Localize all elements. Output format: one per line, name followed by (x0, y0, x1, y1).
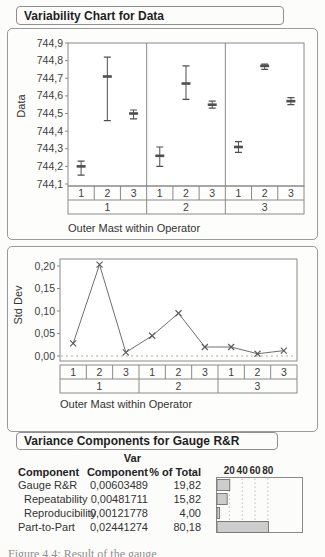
group-label: 1 (149, 366, 155, 378)
y-tick-label: 744,9 (37, 37, 63, 49)
mean-marker (77, 165, 86, 168)
y-tick-label: 0,05 (35, 327, 56, 339)
plot-frame (60, 259, 297, 361)
group-label: 2 (97, 366, 103, 378)
y-tick-label: 744,6 (37, 89, 63, 101)
y-tick-label: 744,1 (37, 178, 63, 190)
pct-of-total-cell: 19,82 (0, 479, 201, 491)
y-axis-title: Data (15, 94, 27, 118)
y-tick-label: 0,15 (35, 282, 56, 294)
x-axis-table: 123123123123 (60, 365, 297, 393)
group-label: 3 (123, 366, 129, 378)
bar-axis-tick-label: 80 (262, 465, 274, 476)
mean-marker (103, 75, 112, 78)
group-label: 2 (183, 187, 189, 199)
bar-axis-tick-label: 60 (249, 465, 261, 476)
group-label: 2 (104, 187, 110, 199)
y-tick-label: 0,20 (35, 260, 56, 272)
group-label: 1 (157, 187, 163, 199)
y-tick-label: 744,8 (37, 54, 63, 66)
variability-chart-section: 744,9744,8744,7744,6744,5744,4744,3744,2… (7, 28, 318, 240)
group-label: 1 (236, 187, 242, 199)
y-tick-label: 744,4 (37, 125, 63, 137)
x-axis-title: Outer Mast within Operator (60, 398, 192, 410)
y-axis: 744,9744,8744,7744,6744,5744,4744,3744,2… (37, 37, 68, 190)
group-label: 3 (209, 187, 215, 199)
operator-label: 3 (255, 380, 261, 392)
x-axis-title: Outer Mast within Operator (68, 222, 200, 234)
x-axis-table: 123123123123 (68, 186, 304, 214)
group-label: 2 (176, 366, 182, 378)
mean-marker (129, 112, 138, 115)
y-tick-label: 0,10 (35, 305, 56, 317)
group-label: 3 (281, 366, 287, 378)
variability-chart: 744,9744,8744,7744,6744,5744,4744,3744,2… (8, 29, 317, 239)
outline-title-variance-components[interactable]: Variance Components for Gauge R&R (16, 432, 278, 450)
operator-label: 2 (176, 380, 182, 392)
y-tick-label: 744,7 (37, 72, 63, 84)
header-var: Var (0, 452, 141, 464)
pct-of-total-cell: 4,00 (0, 507, 201, 519)
group-label: 1 (78, 187, 84, 199)
y-axis-title: Std Dev (12, 285, 24, 325)
pct-of-total-cell: 15,82 (0, 493, 201, 505)
figure-caption: Figure 4.4: Result of the gauge (8, 547, 325, 557)
header-pct-of-total: % of Total (0, 466, 201, 478)
y-tick-label: 744,2 (37, 160, 63, 172)
operator-label: 2 (183, 201, 189, 213)
operator-label: 1 (104, 201, 110, 213)
mean-marker (208, 103, 217, 106)
pct-bar (217, 480, 230, 491)
group-label: 3 (288, 187, 294, 199)
mean-marker (286, 100, 295, 103)
bar-axis-tick-label: 40 (237, 465, 249, 476)
pct-bar (217, 522, 268, 533)
y-tick-label: 744,5 (37, 107, 63, 119)
operator-label: 1 (97, 380, 103, 392)
stddev-chart: 0,200,150,100,050,00Std Dev123123123123O… (8, 247, 317, 431)
operator-label: 3 (262, 201, 268, 213)
mean-marker (260, 65, 269, 68)
variability-chart-title: Variability Chart for Data (24, 9, 164, 23)
y-axis: 0,200,150,100,050,00 (35, 260, 60, 362)
group-label: 1 (70, 366, 76, 378)
variance-components-title: Variance Components for Gauge R&R (24, 434, 239, 448)
mean-marker (155, 155, 164, 158)
group-label: 1 (228, 366, 234, 378)
pct-of-total-bar-chart: 20406080 (210, 457, 322, 537)
y-tick-label: 0,00 (35, 350, 56, 362)
stddev-chart-section: 0,200,150,100,050,00Std Dev123123123123O… (7, 246, 318, 432)
group-label: 3 (131, 187, 137, 199)
plot-frame (68, 43, 304, 186)
mean-marker (234, 146, 243, 149)
group-label: 3 (202, 366, 208, 378)
group-label: 2 (262, 187, 268, 199)
outline-title-variability-chart[interactable]: Variability Chart for Data (16, 6, 284, 25)
page: Variability Chart for Data 744,9744,8744… (0, 0, 325, 557)
pct-bar (217, 494, 227, 505)
bar-axis-tick-label: 20 (224, 465, 236, 476)
y-tick-label: 744,3 (37, 142, 63, 154)
mean-marker (182, 82, 191, 85)
pct-bar (217, 508, 220, 519)
pct-of-total-cell: 80,18 (0, 521, 201, 533)
group-label: 2 (255, 366, 261, 378)
